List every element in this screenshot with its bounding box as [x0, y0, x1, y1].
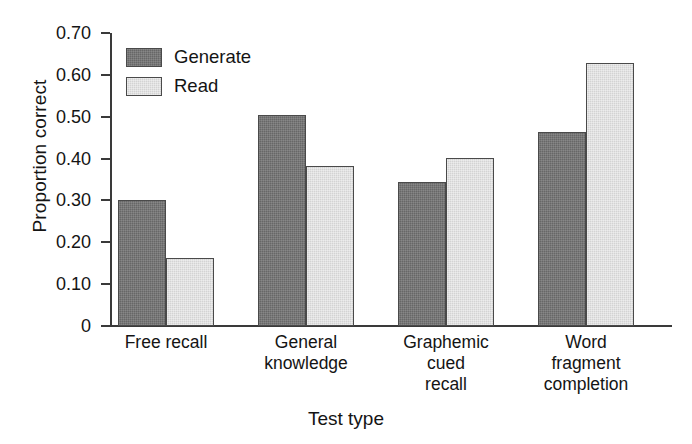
bar-read-1 — [306, 166, 354, 326]
x-axis-category-label-line: General — [236, 332, 376, 353]
legend-swatch-read — [126, 77, 162, 96]
y-axis-tick — [101, 325, 110, 327]
bar-read-0 — [166, 258, 214, 326]
bar-generate-2 — [398, 182, 446, 326]
y-axis-tick-label: 0.50 — [9, 106, 91, 127]
y-axis-tick — [101, 74, 110, 76]
x-axis-category-label: Free recall — [96, 332, 236, 353]
x-axis-category-label-line: recall — [376, 374, 516, 395]
legend-swatch-generate — [126, 48, 162, 67]
x-axis-category-label-line: cued — [376, 353, 516, 374]
bar-read-3 — [586, 63, 634, 326]
x-axis-category-label-line: Free recall — [96, 332, 236, 353]
y-axis-tick — [101, 32, 110, 34]
x-axis-category-label-line: knowledge — [236, 353, 376, 374]
x-axis-category-label-line: Graphemic — [376, 332, 516, 353]
y-axis-tick-label: 0.40 — [9, 148, 91, 169]
legend-label-generate: Generate — [174, 46, 251, 68]
y-axis-tick-label: 0.20 — [9, 232, 91, 253]
y-axis-tick-label: 0.70 — [9, 23, 91, 44]
x-axis-title: Test type — [0, 408, 692, 430]
bar-generate-1 — [258, 115, 306, 326]
legend-label-read: Read — [174, 75, 218, 97]
y-axis-tick — [101, 116, 110, 118]
x-axis-category-label: Wordfragmentcompletion — [516, 332, 656, 395]
bar-generate-0 — [118, 200, 166, 326]
x-axis-category-label-line: Word — [516, 332, 656, 353]
x-axis-category-label: Generalknowledge — [236, 332, 376, 374]
legend-item-read: Read — [126, 73, 251, 99]
y-axis-tick-label: 0.60 — [9, 64, 91, 85]
bar-generate-3 — [538, 132, 586, 326]
x-axis-category-label-line: fragment — [516, 353, 656, 374]
x-axis-category-label: Graphemiccuedrecall — [376, 332, 516, 395]
y-axis-tick — [101, 283, 110, 285]
chart-legend: GenerateRead — [126, 44, 251, 102]
y-axis-tick-label: 0.10 — [9, 274, 91, 295]
y-axis-tick — [101, 241, 110, 243]
y-axis-tick-label: 0 — [9, 316, 91, 337]
bar-read-2 — [446, 158, 494, 326]
x-axis-category-label-line: completion — [516, 374, 656, 395]
y-axis-tick — [101, 199, 110, 201]
y-axis-tick-label: 0.30 — [9, 190, 91, 211]
bar-chart-figure: Proportion correct 00.100.200.300.400.50… — [0, 0, 692, 444]
y-axis-tick — [101, 158, 110, 160]
legend-item-generate: Generate — [126, 44, 251, 70]
